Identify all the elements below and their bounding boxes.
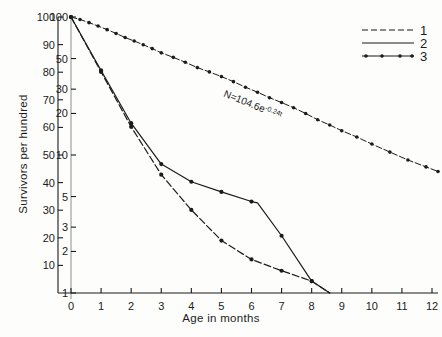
data-point (132, 39, 136, 43)
data-point (96, 24, 100, 28)
legend-item-3[interactable]: 3 (362, 49, 427, 64)
x-tick-label: 7 (279, 300, 285, 312)
data-point (184, 60, 188, 64)
x-tick-label: 3 (158, 300, 164, 312)
data-point (406, 158, 410, 162)
data-point (208, 70, 212, 74)
plot-area: 1009080706050403020101005030201053210123… (0, 0, 442, 337)
x-tick-label: 10 (366, 300, 378, 312)
survival-curve-figure: Survivors per hundred Age in months 1009… (0, 0, 442, 337)
data-point (78, 18, 82, 22)
linear-y-tick-label: 30 (43, 204, 55, 216)
x-tick-label: 6 (248, 300, 254, 312)
data-point (328, 123, 332, 127)
log-y-tick-label: 3 (62, 221, 68, 233)
data-point (249, 199, 253, 203)
data-point (189, 208, 193, 212)
data-point (219, 190, 223, 194)
data-point (279, 234, 283, 238)
annotations: N=104.6e-0.24t (222, 88, 283, 121)
log-y-tick-label: 30 (56, 83, 68, 95)
linear-y-tick-label: 90 (43, 39, 55, 51)
linear-y-tick-label: 70 (43, 94, 55, 106)
log-y-tick-label: 100 (50, 11, 68, 23)
x-tick-label: 4 (188, 300, 194, 312)
data-point (150, 47, 154, 51)
data-point (340, 129, 344, 133)
data-point (99, 68, 103, 72)
svg-text:N=104.6e-0.24t: N=104.6e-0.24t (222, 88, 283, 121)
log-y-tick-label: 2 (62, 245, 68, 257)
x-tick-label: 1 (98, 300, 104, 312)
data-point (244, 85, 248, 89)
legend-marker (364, 54, 368, 58)
x-tick-label: 2 (128, 300, 134, 312)
log-y-tick-label: 10 (56, 149, 68, 161)
data-point (159, 162, 163, 166)
legend[interactable]: 123 (362, 23, 427, 64)
linear-y-tick-label: 40 (43, 177, 55, 189)
data-point (220, 75, 224, 79)
linear-y-tick-label: 20 (43, 232, 55, 244)
series-line-2 (71, 17, 330, 293)
data-point (141, 43, 145, 47)
data-point (129, 121, 133, 125)
data-point (316, 118, 320, 122)
linear-y-tick-label: 10 (43, 259, 55, 271)
data-point (87, 21, 91, 25)
log-y-tick-label: 5 (62, 191, 68, 203)
data-point (370, 142, 374, 146)
data-point (219, 238, 223, 242)
data-point (69, 15, 73, 19)
x-tick-label: 11 (396, 300, 407, 312)
data-point (310, 279, 314, 283)
data-point (249, 257, 253, 261)
data-point (279, 269, 283, 273)
data-point (189, 180, 193, 184)
data-point (256, 90, 260, 94)
log-y-tick-label: 20 (56, 107, 68, 119)
data-point (114, 32, 118, 36)
x-tick-label: 0 (68, 300, 74, 312)
data-point (355, 135, 359, 139)
x-tick-label: 9 (339, 300, 345, 312)
data-point (159, 173, 163, 177)
fitted-equation: N=104.6e-0.24t (222, 88, 283, 121)
legend-item-1[interactable]: 1 (362, 23, 427, 38)
linear-y-tick-label: 50 (43, 149, 55, 161)
data-point (424, 165, 428, 169)
data-point (171, 56, 175, 60)
x-tick-label: 5 (218, 300, 224, 312)
data-point (196, 66, 200, 70)
data-point (304, 112, 308, 116)
data-point (123, 36, 127, 40)
data-point (268, 96, 272, 100)
x-tick-label: 8 (309, 300, 315, 312)
data-point (388, 150, 392, 154)
data-point (105, 28, 109, 32)
linear-y-tick-label: 60 (43, 121, 55, 133)
linear-y-tick-label: 80 (43, 66, 55, 78)
legend-marker (380, 54, 384, 58)
data-point (280, 101, 284, 105)
series-line-3 (71, 17, 438, 171)
legend-item-2[interactable]: 2 (362, 36, 427, 51)
legend-marker (398, 54, 402, 58)
data-point (292, 106, 296, 110)
data-point (436, 170, 440, 174)
legend-marker (410, 54, 414, 58)
series-line-1 (71, 17, 330, 293)
legend-label-3: 3 (420, 49, 427, 64)
data-series (69, 15, 440, 293)
log-y-tick-label: 50 (56, 53, 68, 65)
data-point (232, 80, 236, 84)
x-tick-label: 12 (426, 300, 438, 312)
data-point (159, 51, 163, 55)
